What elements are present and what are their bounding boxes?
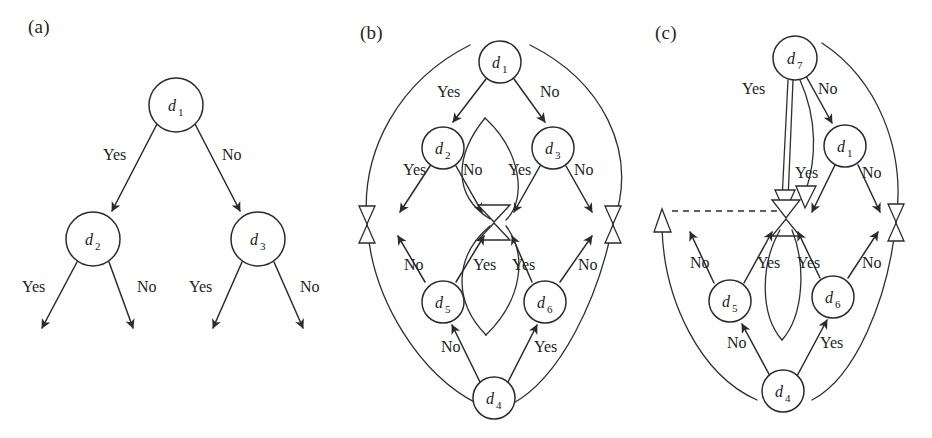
node-a-d3-sub: 3 (260, 240, 266, 252)
node-b-d2 (422, 127, 464, 169)
edge-label-b-3: No (463, 161, 483, 178)
node-c-d6 (812, 276, 854, 318)
edge-label-c-8: No (727, 334, 747, 351)
edge-a-d1-d3 (195, 124, 240, 211)
edge-label-b-8: Yes (512, 256, 535, 273)
edge-label-b-4: Yes (508, 161, 531, 178)
edge-label-b-10: No (441, 338, 461, 355)
node-c-d1-sub: 1 (847, 147, 853, 159)
node-b-d3 (532, 127, 574, 169)
edge-label-b-11: Yes (534, 338, 557, 355)
edge-c-d7-hub-line1 (782, 80, 788, 200)
edge-c-lens-left (765, 230, 782, 340)
edge-label-c-5: Yes (757, 254, 780, 271)
edge-c-d7-curve-arrowhead (796, 186, 816, 208)
edge-a-d3-leaf-yes (213, 262, 242, 328)
edge-label-c-7: No (862, 254, 882, 271)
node-b-d1 (479, 41, 521, 83)
edge-label-c-1: No (818, 80, 838, 97)
edge-a-d2-leaf-yes (42, 262, 77, 328)
edge-label-a-2: Yes (22, 278, 45, 295)
edge-a-d2-leaf-no (109, 262, 133, 328)
hub-c-upper-arrowhead (772, 200, 800, 218)
node-a-d2-sub: 2 (95, 240, 101, 252)
edge-label-a-0: Yes (103, 146, 126, 163)
edge-b-lens-lower-right (486, 226, 519, 335)
node-c-d4-base: d (775, 383, 784, 400)
marker-b-right-bowtie (605, 206, 621, 243)
diagram-canvas: d 1 d 2 d 3 Yes No Yes No Yes No (0, 0, 932, 438)
edge-a-d3-leaf-no (274, 262, 303, 328)
node-b-d6 (524, 281, 566, 323)
edge-label-c-4: No (690, 254, 710, 271)
marker-c-right-bowtie (888, 204, 904, 241)
edge-label-b-9: No (578, 256, 598, 273)
node-a-d2-base: d (85, 231, 94, 248)
edge-label-b-1: No (540, 83, 560, 100)
node-c-d4 (762, 370, 804, 412)
edge-label-a-5: No (300, 278, 320, 295)
edge-label-c-3: No (862, 164, 882, 181)
node-b-d6-sub: 6 (547, 303, 553, 315)
node-b-d1-sub: 1 (502, 63, 508, 75)
edge-label-b-0: Yes (437, 83, 460, 100)
node-b-d2-base: d (435, 140, 444, 157)
edge-label-b-6: No (404, 256, 424, 273)
node-c-d7-sub: 7 (797, 59, 803, 71)
panel-a-graphics: d 1 d 2 d 3 Yes No Yes No Yes No (22, 78, 320, 328)
node-c-d5 (709, 280, 751, 322)
edge-label-b-7: Yes (473, 256, 496, 273)
node-b-d4-base: d (486, 390, 495, 407)
node-a-d1-sub: 1 (178, 106, 184, 118)
node-a-d2 (66, 212, 120, 266)
edge-label-c-2: Yes (795, 164, 818, 181)
edge-label-a-3: No (137, 278, 157, 295)
node-c-d7 (773, 36, 817, 80)
hub-c-lower-arrowhead (772, 219, 800, 236)
edge-label-b-2: Yes (403, 161, 426, 178)
node-b-d2-sub: 2 (445, 149, 451, 161)
node-b-d3-sub: 3 (555, 149, 561, 161)
marker-c-left-triangle (654, 209, 671, 232)
edge-b-d4-d6 (508, 325, 537, 382)
node-c-d5-sub: 5 (732, 302, 738, 314)
figure-container: (a) (b) (c) d 1 (0, 0, 932, 438)
node-a-d3-base: d (250, 231, 259, 248)
edge-label-c-6: Yes (797, 254, 820, 271)
panel-b-graphics: d 1 d 2 d 3 d 5 d 6 d 4 Yes No Yes No Ye… (359, 41, 621, 419)
node-b-d4-sub: 4 (496, 399, 502, 411)
node-c-d7-base: d (787, 50, 796, 67)
node-c-d1 (824, 125, 866, 167)
node-b-d5 (422, 281, 464, 323)
node-b-d5-base: d (435, 294, 444, 311)
node-b-d1-base: d (492, 54, 501, 71)
node-b-d3-base: d (545, 140, 554, 157)
node-b-d5-sub: 5 (445, 303, 451, 315)
edge-b-outer-left-arc (366, 45, 478, 404)
node-a-d1 (149, 78, 203, 132)
node-c-d6-base: d (825, 289, 834, 306)
node-b-d4 (473, 377, 515, 419)
edge-label-a-1: No (222, 146, 242, 163)
edge-label-a-4: Yes (189, 278, 212, 295)
node-a-d3 (231, 212, 285, 266)
edge-label-c-9: Yes (820, 334, 843, 351)
marker-b-left-bowtie (359, 206, 375, 243)
edge-c-lens-right (782, 230, 801, 340)
edge-c-d7-hub-line2 (788, 80, 793, 200)
node-c-d5-base: d (722, 293, 731, 310)
edge-label-c-0: Yes (742, 80, 765, 97)
panel-c-graphics: d 7 d 1 d 5 d 6 d 4 Yes No Yes No No Yes… (654, 36, 904, 412)
edge-b-lens-lower-left (462, 226, 490, 335)
node-c-d6-sub: 6 (835, 298, 841, 310)
node-a-d1-base: d (168, 97, 177, 114)
edge-a-d1-d2 (112, 124, 157, 211)
edge-label-b-5: No (574, 161, 594, 178)
node-c-d1-base: d (837, 138, 846, 155)
node-c-d4-sub: 4 (785, 392, 791, 404)
node-b-d6-base: d (537, 294, 546, 311)
